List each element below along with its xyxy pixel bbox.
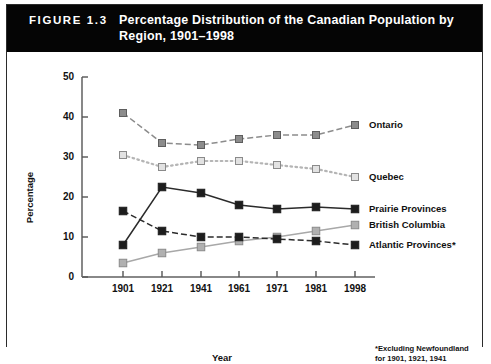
footnote-line-2: for 1901, 1921, 1941	[375, 354, 469, 364]
y-tick-50: 50	[50, 71, 74, 82]
y-tick-30: 30	[50, 151, 74, 162]
figure-title: Percentage Distribution of the Canadian …	[119, 12, 459, 44]
series-label-prairie-provinces: Prairie Provinces	[369, 203, 447, 214]
x-tick-1981: 1981	[296, 283, 336, 294]
series-quebec	[120, 152, 359, 181]
x-tick-1921: 1921	[142, 283, 182, 294]
y-tick-0: 0	[50, 271, 74, 282]
x-tick-1941: 1941	[181, 283, 221, 294]
series-label-quebec: Quebec	[369, 171, 404, 182]
series-ontario	[120, 110, 359, 149]
y-axis-title: Percentage	[24, 148, 35, 248]
series-label-british-columbia: British Columbia	[369, 219, 445, 230]
y-tick-20: 20	[50, 191, 74, 202]
x-tick-1901: 1901	[103, 283, 143, 294]
figure-card: FIGURE 1.3 Percentage Distribution of th…	[6, 4, 483, 347]
series-label-ontario: Ontario	[369, 119, 403, 130]
chart-footnote: *Excluding Newfoundland for 1901, 1921, …	[375, 344, 469, 364]
y-tick-10: 10	[50, 231, 74, 242]
series-label-atlantic-provinces: Atlantic Provinces*	[369, 239, 456, 250]
chart-canvas	[7, 52, 484, 347]
x-tick-1998: 1998	[335, 283, 375, 294]
footnote-line-1: *Excluding Newfoundland	[375, 344, 469, 354]
x-tick-1971: 1971	[257, 283, 297, 294]
y-tick-40: 40	[50, 111, 74, 122]
figure-title-bar: FIGURE 1.3 Percentage Distribution of th…	[7, 5, 482, 52]
x-tick-1961: 1961	[219, 283, 259, 294]
figure-number: FIGURE 1.3	[29, 14, 108, 26]
chart-plot-area: Percentage Year 01020304050 190119211941…	[7, 52, 482, 347]
x-axis-title: Year	[162, 352, 282, 363]
